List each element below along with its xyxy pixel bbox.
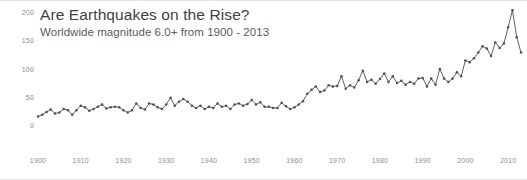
data-point [374,82,377,85]
data-point [319,91,322,94]
data-point [490,55,493,58]
data-point [426,85,429,88]
data-point [293,106,296,109]
data-point [122,109,125,112]
data-point [114,106,117,109]
data-point [174,104,177,107]
data-point [225,104,228,107]
x-axis-tick-label: 1980 [372,157,388,164]
data-point [498,47,501,50]
data-point [413,82,416,85]
data-point [366,81,369,84]
data-point [208,106,211,109]
data-point [62,108,65,111]
y-axis-tick-label: 0 [6,122,34,130]
data-point [191,104,194,107]
data-point [473,57,476,60]
data-point [238,102,241,105]
x-axis-tick-label: 1970 [329,157,345,164]
data-point [276,107,279,110]
data-point [421,77,424,80]
data-point [400,80,403,83]
data-point [460,75,463,78]
data-point [447,81,450,84]
data-point [379,78,382,81]
data-point [464,59,467,62]
data-point [477,51,480,54]
data-point [451,77,454,80]
data-point [409,81,412,84]
data-point [302,100,305,103]
y-axis-tick-label: 150 [6,37,34,45]
y-axis-tick-label: 100 [6,66,34,74]
data-point [456,71,459,74]
data-point [54,112,57,115]
data-point [443,77,446,80]
data-point [468,61,471,64]
x-axis-tick-label: 1920 [115,157,131,164]
data-point [178,100,181,103]
data-point [430,77,433,80]
data-point [520,51,523,54]
x-axis-tick-label: 2000 [457,157,473,164]
data-point [92,108,95,111]
data-point [152,103,155,106]
data-point [289,108,292,111]
series-line [38,13,521,126]
data-point [306,93,309,96]
data-point [148,102,151,105]
data-point [97,106,100,109]
data-point [58,111,61,114]
data-point [340,75,343,78]
data-point [169,97,172,100]
y-axis-tick-mark [31,41,34,42]
data-point [439,68,442,71]
data-point [285,105,288,108]
data-point [434,84,437,87]
data-point [323,89,326,92]
data-point [156,106,159,109]
data-point [345,87,348,90]
data-point [50,108,53,111]
data-point [515,36,518,39]
data-point [263,106,266,109]
x-axis-tick-label: 1950 [244,157,260,164]
data-point [229,108,232,111]
data-point [221,106,224,109]
y-axis-tick-mark [31,13,34,14]
data-point [255,103,257,106]
data-point [349,84,352,87]
data-point [507,26,510,29]
data-point [41,113,44,116]
data-point [79,104,82,107]
data-point [272,107,275,110]
y-axis: 200150100500 [0,1,34,141]
data-point [203,108,206,111]
data-point [481,45,484,48]
data-point [101,103,104,106]
data-point [404,84,407,87]
data-point [268,106,271,109]
data-point [486,47,489,50]
data-point [67,109,70,112]
data-point [250,99,253,102]
data-point [45,111,48,114]
data-point [259,101,262,104]
data-point [118,106,121,109]
data-point [392,75,395,78]
y-axis-tick-label: 50 [6,94,34,102]
earthquake-line-chart: Are Earthquakes on the Rise? Worldwide m… [0,0,527,180]
data-point [370,78,373,81]
data-point [199,104,202,107]
data-point [242,104,245,107]
data-point [105,107,108,110]
data-point [88,110,91,113]
x-axis-tick-label: 1990 [415,157,431,164]
data-point [357,79,360,82]
y-axis-tick-mark [31,70,34,71]
x-axis: 1900191019201930194019501960197019801990… [38,157,521,169]
data-point [383,72,386,75]
data-point [332,85,335,88]
data-point [511,9,514,12]
data-point [165,103,168,106]
